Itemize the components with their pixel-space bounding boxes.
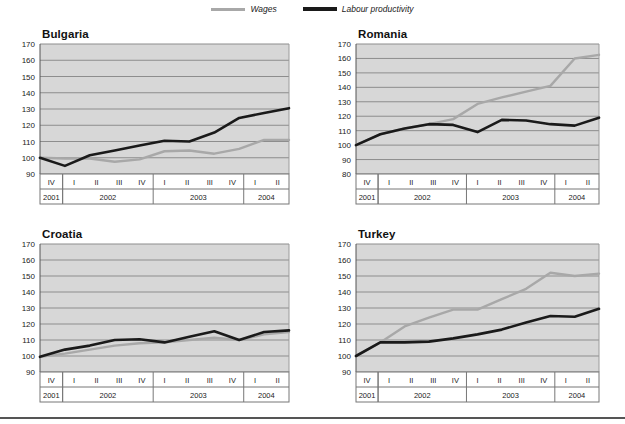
y-tick-label: 150: [22, 272, 36, 281]
x-tick-quarter: I: [565, 178, 567, 187]
y-tick-label: 100: [338, 141, 352, 150]
x-axis-year-label: 2004: [258, 193, 275, 202]
x-axis-year-label: 2003: [502, 391, 519, 400]
x-tick-quarter: II: [185, 178, 189, 187]
chart-panel-croatia: Croatia90100110120130140150160170IVIIIII…: [0, 228, 318, 410]
y-tick-label: 120: [338, 320, 352, 329]
y-tick-label: 100: [22, 352, 36, 361]
x-tick-quarter: IV: [452, 376, 459, 385]
y-tick-label: 120: [338, 112, 352, 121]
x-tick-quarter: I: [565, 376, 567, 385]
y-tick-label: 160: [338, 256, 352, 265]
x-tick-quarter: IV: [363, 376, 370, 385]
x-tick-quarter: IV: [48, 178, 55, 187]
y-tick-label: 160: [22, 56, 36, 65]
y-tick-label: 110: [338, 336, 351, 345]
x-tick-quarter: I: [388, 178, 390, 187]
x-axis-year-label: 2002: [414, 193, 431, 202]
y-tick-label: 130: [338, 304, 352, 313]
x-axis-year-label: 2002: [414, 391, 431, 400]
x-tick-quarter: III: [116, 376, 122, 385]
x-axis-year-label: 2004: [569, 391, 586, 400]
chart-panel-romania: Romania8090100110120130140150160170IVIII…: [318, 26, 625, 228]
footer-divider: [0, 417, 625, 419]
x-tick-quarter: II: [95, 178, 99, 187]
x-tick-quarter: IV: [138, 178, 145, 187]
chart-panel-turkey: Turkey90100110120130140150160170IVIIIIII…: [318, 228, 625, 410]
x-tick-quarter: IV: [540, 178, 547, 187]
y-tick-label: 140: [22, 89, 36, 98]
y-tick-label: 130: [22, 304, 36, 313]
x-axis-year-label: 2003: [502, 193, 519, 202]
x-axis-year-label: 2001: [359, 193, 376, 202]
x-tick-quarter: II: [185, 376, 189, 385]
y-tick-label: 140: [338, 83, 352, 92]
x-axis-year-label: 2002: [100, 193, 117, 202]
x-tick-quarter: III: [116, 178, 122, 187]
y-tick-label: 120: [22, 121, 36, 130]
x-tick-quarter: II: [276, 376, 280, 385]
y-tick-label: 170: [22, 240, 36, 249]
x-tick-quarter: II: [498, 178, 502, 187]
x-axis-year-label: 2001: [359, 391, 376, 400]
y-tick-label: 110: [22, 336, 35, 345]
x-tick-quarter: I: [254, 178, 256, 187]
y-tick-label: 150: [22, 73, 36, 82]
y-tick-label: 130: [22, 105, 36, 114]
x-tick-quarter: IV: [48, 376, 55, 385]
y-tick-label: 170: [338, 40, 352, 49]
y-tick-label: 150: [338, 272, 352, 281]
x-axis-year-label: 2003: [190, 193, 207, 202]
y-tick-label: 80: [342, 170, 351, 179]
x-tick-quarter: I: [388, 376, 390, 385]
x-tick-quarter: IV: [229, 178, 236, 187]
chart-panel-bulgaria: Bulgaria90100110120130140150160170IVIIII…: [0, 26, 318, 228]
x-axis-year-label: 2002: [100, 391, 117, 400]
chart-canvas: 90100110120130140150160170IVIIIIIIIVIIII…: [0, 26, 318, 228]
x-tick-quarter: IV: [452, 178, 459, 187]
legend-item-wages: Wages: [211, 4, 276, 14]
plot-background: [356, 44, 599, 174]
x-tick-quarter: II: [498, 376, 502, 385]
x-tick-quarter: II: [95, 376, 99, 385]
x-axis-year-label: 2001: [43, 391, 60, 400]
y-tick-label: 110: [338, 127, 351, 136]
legend-item-labour-productivity: Labour productivity: [303, 4, 414, 14]
x-axis-year-label: 2004: [569, 193, 586, 202]
x-axis-year-label: 2003: [190, 391, 207, 400]
x-tick-quarter: I: [73, 178, 75, 187]
y-tick-label: 160: [338, 54, 352, 63]
x-tick-quarter: I: [73, 376, 75, 385]
x-tick-quarter: IV: [138, 376, 145, 385]
y-tick-label: 170: [22, 40, 36, 49]
y-tick-label: 130: [338, 98, 352, 107]
x-tick-quarter: III: [430, 376, 436, 385]
x-tick-quarter: IV: [540, 376, 547, 385]
x-tick-quarter: I: [254, 376, 256, 385]
legend-swatch-labour-productivity: [303, 7, 337, 11]
y-tick-label: 100: [338, 352, 352, 361]
x-tick-quarter: III: [430, 178, 436, 187]
y-tick-label: 90: [26, 368, 35, 377]
y-tick-label: 160: [22, 256, 36, 265]
x-tick-quarter: II: [586, 178, 590, 187]
x-tick-quarter: III: [519, 376, 525, 385]
legend-label-labour-productivity: Labour productivity: [342, 4, 414, 14]
x-tick-quarter: I: [163, 376, 165, 385]
y-tick-label: 140: [22, 288, 36, 297]
y-tick-label: 120: [22, 320, 36, 329]
x-tick-quarter: I: [476, 178, 478, 187]
x-tick-quarter: III: [207, 178, 213, 187]
x-tick-quarter: IV: [363, 178, 370, 187]
chart-canvas: 90100110120130140150160170IVIIIIIIIVIIII…: [318, 228, 625, 410]
y-tick-label: 170: [338, 240, 352, 249]
y-tick-label: 110: [22, 138, 35, 147]
x-tick-quarter: III: [519, 178, 525, 187]
x-axis-year-label: 2001: [43, 193, 60, 202]
chart-legend: Wages Labour productivity: [0, 4, 625, 14]
y-tick-label: 100: [22, 154, 36, 163]
chart-canvas: 8090100110120130140150160170IVIIIIIIIVII…: [318, 26, 625, 228]
x-tick-quarter: I: [163, 178, 165, 187]
x-tick-quarter: IV: [229, 376, 236, 385]
x-tick-quarter: I: [476, 376, 478, 385]
